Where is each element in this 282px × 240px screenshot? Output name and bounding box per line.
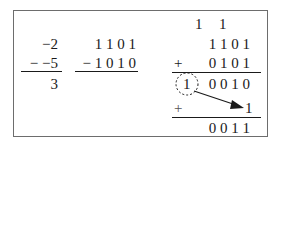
final-result: 0 0 1 1 <box>190 121 250 136</box>
final-underline <box>172 117 261 118</box>
end-around-arrow-line <box>194 91 236 105</box>
end-around-plus: + <box>174 101 182 116</box>
arrow-head-icon <box>230 100 244 109</box>
end-around-bit: 1 <box>245 101 253 116</box>
